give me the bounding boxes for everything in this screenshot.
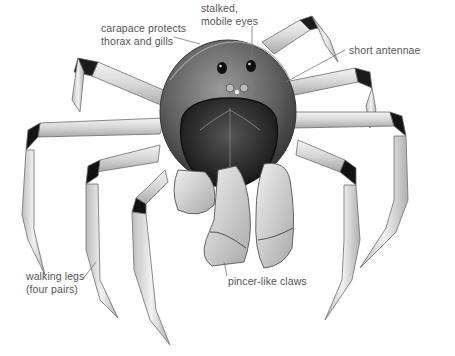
crab-diagram: stalked, mobile eyes carapace protects t…	[0, 0, 455, 356]
left-walking-legs	[22, 58, 175, 345]
label-claws: pincer-like claws	[228, 275, 307, 288]
claws	[174, 163, 294, 268]
label-walking-legs: walking legs (four pairs)	[26, 270, 84, 295]
label-eyes: stalked, mobile eyes	[201, 2, 258, 27]
label-carapace: carapace protects thorax and gills	[101, 22, 186, 47]
label-antennae: short antennae	[349, 44, 420, 57]
